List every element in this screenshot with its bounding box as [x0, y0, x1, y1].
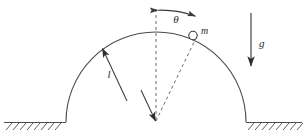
radius-to-mass-dashed-line: [156, 37, 197, 121]
mass-label-m: m: [201, 25, 208, 36]
radius-arrow-lower-segment: [141, 90, 156, 121]
angle-label-theta: θ: [173, 13, 179, 25]
radius-arrow-upper-segment: [103, 49, 128, 102]
ground-left: [4, 123, 66, 131]
mass-marker-circle: [189, 31, 197, 39]
physics-diagram-figure: l θ m g: [0, 0, 306, 139]
ground-hatching-right: [248, 123, 303, 130]
ground-right: [246, 123, 303, 131]
radius-label-l: l: [107, 68, 110, 80]
ground-hatching-left: [6, 123, 61, 130]
dome-mass-diagram-canvas: l θ m g: [0, 0, 306, 139]
gravity-label-g: g: [259, 37, 265, 49]
